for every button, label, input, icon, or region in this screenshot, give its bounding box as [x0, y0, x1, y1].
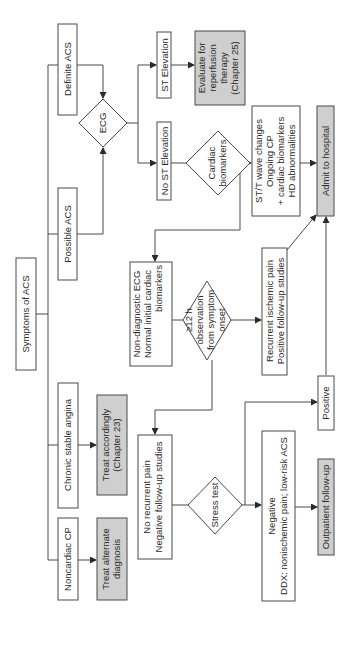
node-possible-acs: Possible ACS — [58, 188, 77, 280]
svg-text:ST Elevation: ST Elevation — [159, 38, 170, 92]
svg-text:Noncardiac CP: Noncardiac CP — [62, 527, 73, 591]
node-admit-to-hospital: Admit to hospital — [317, 106, 334, 216]
svg-text:HD abnormalities: HD abnormalities — [286, 124, 297, 197]
node-treat-accordingly: Treat accordingly (Chapter 23) — [97, 395, 127, 495]
node-label: Symptoms of ACS — [20, 275, 31, 352]
svg-text:Positive follow-up studies: Positive follow-up studies — [275, 257, 286, 364]
svg-text:Stress test: Stress test — [209, 482, 220, 527]
connector-observation-norecurrent — [155, 360, 212, 434]
svg-text:therapy: therapy — [218, 52, 229, 84]
node-stress-test-decision: Stress test — [188, 477, 242, 534]
svg-text:Ongoing CP: Ongoing CP — [264, 135, 275, 187]
node-noncardiac-cp: Noncardiac CP — [58, 518, 78, 600]
connector-recurrent-admit — [287, 215, 316, 250]
node-negative-ddx: Negative DDX: nonischemic pain; low-risk… — [262, 431, 295, 601]
node-treat-alternate-diagnosis: Treat alternate diagnosis — [97, 518, 127, 600]
svg-text:Admit to hospital: Admit to hospital — [320, 126, 331, 196]
svg-text:Recurrent ischemic pain: Recurrent ischemic pain — [264, 260, 275, 362]
node-evaluate-reperfusion: Evaluate for reperfusion therapy (Chapte… — [195, 31, 245, 105]
svg-text:biomarkers: biomarkers — [153, 265, 164, 312]
svg-text:Evaluate for: Evaluate for — [196, 43, 207, 94]
svg-text:ST/T wave changes: ST/T wave changes — [253, 119, 264, 203]
svg-text:from symptom: from symptom — [205, 290, 216, 350]
svg-text:≥12 h: ≥12 h — [183, 308, 194, 332]
svg-text:Normal initial cardiac: Normal initial cardiac — [142, 270, 153, 358]
node-no-st-elevation: No ST Elevation — [157, 122, 171, 200]
svg-text:Outpatient follow-up: Outpatient follow-up — [320, 465, 331, 550]
svg-text:diagnosis: diagnosis — [111, 539, 122, 579]
svg-text:(Chapter 25): (Chapter 25) — [229, 41, 240, 94]
node-st-t-wave-changes: ST/T wave changes Ongoing CP + cardiac b… — [252, 106, 300, 216]
node-recurrent-ischemic-pain: Recurrent ischemic pain Positive follow-… — [262, 248, 287, 375]
svg-text:Negative follow-up studies: Negative follow-up studies — [153, 441, 164, 552]
node-observation-decision: ≥12 h observation from symptom onset — [183, 281, 231, 360]
svg-text:Negative: Negative — [266, 497, 277, 535]
svg-text:Cardiac: Cardiac — [206, 146, 217, 179]
svg-text:observation: observation — [194, 295, 205, 344]
svg-text:Definite ACS: Definite ACS — [62, 42, 73, 96]
node-ecg-decision: ECG — [79, 99, 127, 147]
node-non-diagnostic-ecg: Non-diagnostic ECG Normal initial cardia… — [130, 262, 172, 366]
svg-text:+ cardiac biomarkers: + cardiac biomarkers — [275, 117, 286, 206]
node-chronic-stable-angina: Chronic stable angina — [58, 383, 78, 508]
svg-text:(Chapter 23): (Chapter 23) — [111, 418, 122, 471]
svg-text:Possible ACS: Possible ACS — [62, 205, 73, 263]
node-positive: Positive — [318, 376, 334, 430]
flowchart-svg: Symptoms of ACS Definite ACS Possible AC… — [0, 0, 344, 649]
node-symptoms-of-acs: Symptoms of ACS — [16, 258, 36, 370]
node-no-recurrent-pain: No recurrent pain Negative follow-up stu… — [138, 435, 172, 559]
svg-text:No recurrent pain: No recurrent pain — [141, 460, 152, 533]
svg-text:Treat accordingly: Treat accordingly — [100, 408, 111, 481]
svg-text:ECG: ECG — [97, 113, 108, 134]
svg-text:Chronic stable angina: Chronic stable angina — [62, 398, 73, 491]
svg-text:Treat alternate: Treat alternate — [100, 528, 111, 589]
svg-text:DDX: nonischemic pain; low-ris: DDX: nonischemic pain; low-risk ACS — [278, 437, 289, 595]
svg-text:reperfusion: reperfusion — [207, 44, 218, 92]
svg-text:Non-diagnostic ECG: Non-diagnostic ECG — [131, 271, 142, 358]
node-outpatient-follow-up: Outpatient follow-up — [318, 459, 334, 555]
connector-definite-ecg — [77, 65, 103, 98]
acs-flowchart: Symptoms of ACS Definite ACS Possible AC… — [0, 0, 344, 649]
node-st-elevation: ST Elevation — [157, 32, 171, 98]
node-definite-acs: Definite ACS — [58, 24, 77, 115]
connector-possible-ecg — [77, 148, 103, 234]
svg-text:Positive: Positive — [320, 386, 331, 419]
svg-text:onset: onset — [216, 308, 227, 332]
svg-text:No ST Elevation: No ST Elevation — [159, 127, 170, 195]
svg-text:biomarkers: biomarkers — [217, 139, 228, 186]
